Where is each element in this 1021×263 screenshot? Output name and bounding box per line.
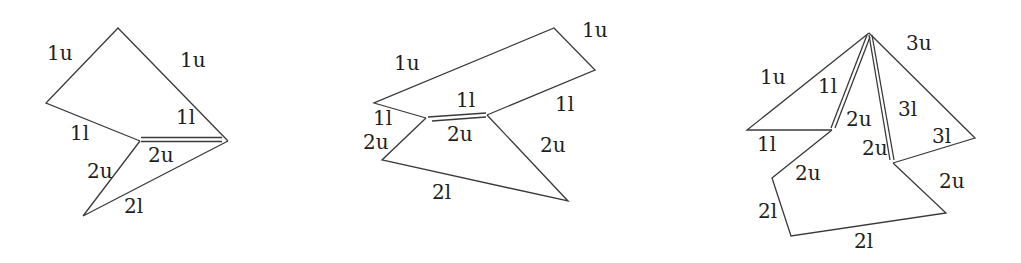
panel-2: 1u 1u 1l 1l 1l 2u 2u 2u 2l [363,18,608,204]
panel-2-label: 1u [582,18,608,42]
panel-1-label: 2u [148,143,174,167]
panel-2-label: 2l [432,180,451,204]
panel-3-label: 2l [758,199,777,223]
panel-2-label: 1u [394,51,420,75]
panel-2-lower-outline [382,115,568,201]
panel-1-label: 2l [124,194,143,218]
panel-3-label: 3u [906,31,932,55]
panel-1: 1u 1u 1l 1l 2u 2u 2l [46,28,228,218]
panel-2-label: 2u [363,130,389,154]
panel-2-double-edge-top [428,113,486,117]
panel-3-label: 2u [795,161,821,185]
panel-2-label: 1l [456,88,475,112]
diagram-svg: 1u 1u 1l 1l 2u 2u 2l 1u 1u 1l 1l 1l 2u 2… [0,0,1021,263]
panel-1-label: 1l [70,121,89,145]
panel-2-label: 2u [540,133,566,157]
panel-1-label: 1u [180,48,206,72]
panel-3-label: 2l [854,229,873,253]
panel-2-label: 1l [373,106,392,130]
panel-2-label: 2u [447,122,473,146]
panel-1-label: 1l [176,105,195,129]
panel-3-label: 2u [846,107,872,131]
panel-3: 3u 1u 1l 2u 3l 1l 3l 2u 2u 2u 2l 2l [747,31,975,253]
panel-3-label: 3l [898,97,917,121]
panel-3-label: 2u [939,169,965,193]
panel-1-label: 2u [87,159,113,183]
panel-3-label: 3l [932,124,951,148]
panel-2-label: 1l [555,92,574,116]
panel-3-label: 1l [818,74,837,98]
panel-3-label: 1u [760,65,786,89]
panel-3-label: 1l [757,132,776,156]
folding-diagram-figure: 1u 1u 1l 1l 2u 2u 2l 1u 1u 1l 1l 1l 2u 2… [0,0,1021,263]
panel-3-label: 2u [862,136,888,160]
panel-1-label: 1u [47,41,73,65]
panel-2-double-edge-bottom [432,117,486,121]
